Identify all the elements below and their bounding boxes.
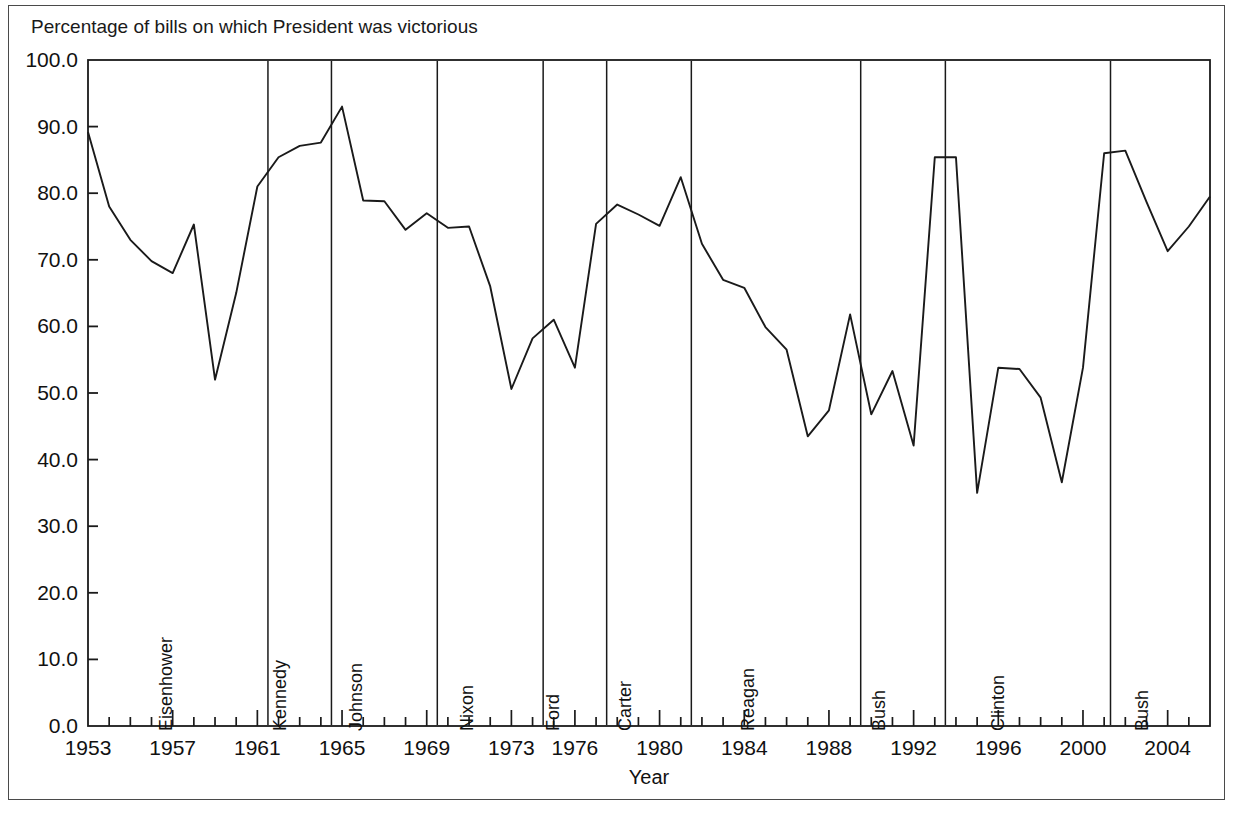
x-axis-tick-label: 1969 [403,736,450,760]
x-axis-tick-label: 2004 [1144,736,1191,760]
y-axis-ticks [88,127,98,660]
x-axis-tick-label: 1984 [721,736,768,760]
x-axis-tick-label: 1988 [806,736,853,760]
x-axis-tick-label: 1965 [319,736,366,760]
president-label-clinton: Clinton [988,675,1009,731]
president-label-bush: Bush [869,690,890,731]
figure-container: Percentage of bills on which President w… [0,0,1233,818]
x-axis-tick-label: 1953 [65,736,112,760]
x-axis-tick-label: 1976 [552,736,599,760]
president-label-nixon: Nixon [457,685,478,731]
president-label-johnson: Johnson [346,663,367,731]
x-axis-title: Year [629,766,669,789]
y-axis-tick-label: 100.0 [4,48,78,72]
y-axis-tick-label: 60.0 [4,314,78,338]
president-label-carter: Carter [615,681,636,731]
x-axis-tick-label: 2000 [1060,736,1107,760]
x-axis-tick-label: 1980 [636,736,683,760]
y-axis-tick-label: 0.0 [4,714,78,738]
x-axis-tick-label: 1957 [149,736,196,760]
y-axis-tick-label: 40.0 [4,448,78,472]
x-axis-tick-label: 1996 [975,736,1022,760]
president-label-bush: Bush [1132,690,1153,731]
y-axis-tick-label: 30.0 [4,514,78,538]
y-axis-tick-label: 10.0 [4,647,78,671]
y-axis-tick-label: 70.0 [4,248,78,272]
plot-frame [88,60,1210,726]
president-label-ford: Ford [543,694,564,731]
x-axis-tick-label: 1961 [234,736,281,760]
president-divider-lines [268,61,1111,725]
data-series-line [88,107,1210,493]
president-label-reagan: Reagan [738,668,759,731]
y-axis-tick-label: 80.0 [4,181,78,205]
y-axis-tick-label: 50.0 [4,381,78,405]
x-axis-tick-label: 1973 [488,736,535,760]
y-axis-tick-label: 20.0 [4,581,78,605]
president-label-eisenhower: Eisenhower [156,637,177,731]
y-axis-tick-label: 90.0 [4,115,78,139]
president-label-kennedy: Kennedy [270,660,291,731]
x-axis-tick-label: 1992 [890,736,937,760]
